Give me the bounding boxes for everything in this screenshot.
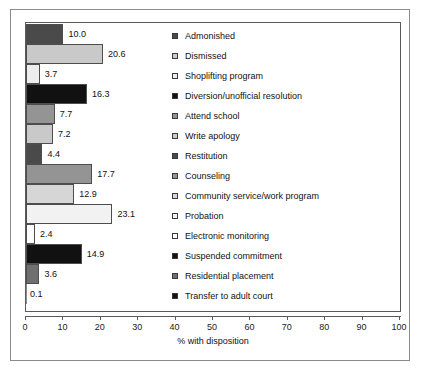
legend-item[interactable]: Transfer to adult court <box>172 286 387 306</box>
x-axis-tick <box>62 316 63 320</box>
legend-item-label: Shoplifting program <box>185 71 263 82</box>
bar-value-label: 4.4 <box>47 146 60 162</box>
x-axis-tick-label: 80 <box>309 322 339 333</box>
figure-container: 10.020.63.716.37.77.24.417.712.923.12.41… <box>0 0 425 377</box>
bar[interactable] <box>26 184 74 204</box>
x-axis-tick-label: 70 <box>272 322 302 333</box>
legend-item[interactable]: Admonished <box>172 26 387 46</box>
legend-swatch-icon <box>172 173 178 179</box>
x-axis-tick-label: 30 <box>122 322 152 333</box>
legend-item-label: Diversion/unofficial resolution <box>185 91 302 102</box>
bar-value-label: 7.7 <box>60 106 73 122</box>
x-axis-tick-label: 10 <box>47 322 77 333</box>
legend-item[interactable]: Attend school <box>172 106 387 126</box>
x-axis-tick-label: 50 <box>197 322 227 333</box>
legend-swatch-icon <box>172 213 178 219</box>
legend-swatch-icon <box>172 273 178 279</box>
x-axis-tick-label: 20 <box>85 322 115 333</box>
legend-item-label: Community service/work program <box>185 191 319 202</box>
legend-swatch-icon <box>172 113 178 119</box>
bar[interactable] <box>26 144 42 164</box>
bar-value-label: 7.2 <box>58 126 71 142</box>
chart-legend: AdmonishedDismissedShoplifting programDi… <box>172 26 387 306</box>
bar[interactable] <box>26 244 82 264</box>
bar[interactable] <box>26 124 53 144</box>
x-axis-tick-label: 100 <box>384 322 414 333</box>
bar[interactable] <box>26 44 103 64</box>
x-axis-title: % with disposition <box>25 336 401 346</box>
legend-item-label: Transfer to adult court <box>185 291 273 302</box>
legend-item[interactable]: Dismissed <box>172 46 387 66</box>
bar[interactable] <box>26 64 40 84</box>
x-axis-tick-label: 0 <box>10 322 40 333</box>
legend-item-label: Counseling <box>185 171 230 182</box>
legend-item[interactable]: Diversion/unofficial resolution <box>172 86 387 106</box>
x-axis-tick <box>362 316 363 320</box>
bar-value-label: 3.7 <box>45 66 58 82</box>
legend-item-label: Dismissed <box>185 51 227 62</box>
legend-item[interactable]: Residential placement <box>172 266 387 286</box>
bar[interactable] <box>26 224 35 244</box>
bar-value-label: 12.9 <box>79 186 97 202</box>
legend-swatch-icon <box>172 193 178 199</box>
bar-value-label: 20.6 <box>108 46 126 62</box>
x-axis-tick <box>137 316 138 320</box>
legend-item[interactable]: Suspended commitment <box>172 246 387 266</box>
legend-item-label: Attend school <box>185 111 240 122</box>
bar-value-label: 14.9 <box>87 246 105 262</box>
legend-item[interactable]: Write apology <box>172 126 387 146</box>
legend-item[interactable]: Community service/work program <box>172 186 387 206</box>
x-axis-tick <box>287 316 288 320</box>
x-axis-line <box>25 316 401 317</box>
legend-item-label: Admonished <box>185 31 235 42</box>
legend-swatch-icon <box>172 73 178 79</box>
bar-value-label: 23.1 <box>117 206 135 222</box>
legend-item-label: Restitution <box>185 151 228 162</box>
bar-value-label: 3.6 <box>44 266 57 282</box>
legend-item[interactable]: Counseling <box>172 166 387 186</box>
legend-item[interactable]: Probation <box>172 206 387 226</box>
legend-item-label: Electronic monitoring <box>185 231 269 242</box>
x-axis-tick-label: 40 <box>160 322 190 333</box>
x-axis-tick <box>100 316 101 320</box>
bar[interactable] <box>26 164 92 184</box>
legend-item-label: Suspended commitment <box>185 251 282 262</box>
legend-swatch-icon <box>172 253 178 259</box>
legend-swatch-icon <box>172 153 178 159</box>
x-axis-tick-label: 90 <box>347 322 377 333</box>
legend-swatch-icon <box>172 93 178 99</box>
bar[interactable] <box>26 264 39 284</box>
bar-value-label: 0.1 <box>30 286 43 302</box>
x-axis-tick <box>249 316 250 320</box>
legend-swatch-icon <box>172 133 178 139</box>
x-axis-tick-label: 60 <box>234 322 264 333</box>
bar-value-label: 2.4 <box>40 226 53 242</box>
x-axis-tick <box>212 316 213 320</box>
x-axis-tick <box>25 316 26 320</box>
legend-swatch-icon <box>172 53 178 59</box>
bar[interactable] <box>26 104 55 124</box>
bar[interactable] <box>26 24 63 44</box>
bar-value-label: 17.7 <box>97 166 115 182</box>
bar[interactable] <box>26 204 112 224</box>
legend-item-label: Probation <box>185 211 224 222</box>
legend-swatch-icon <box>172 233 178 239</box>
x-axis-tick <box>399 316 400 320</box>
bar-value-label: 10.0 <box>68 26 86 42</box>
legend-item[interactable]: Shoplifting program <box>172 66 387 86</box>
legend-swatch-icon <box>172 33 178 39</box>
x-axis-tick <box>175 316 176 320</box>
legend-swatch-icon <box>172 293 178 299</box>
bar[interactable] <box>26 84 87 104</box>
legend-item-label: Write apology <box>185 131 240 142</box>
legend-item[interactable]: Restitution <box>172 146 387 166</box>
legend-item-label: Residential placement <box>185 271 274 282</box>
bar-value-label: 16.3 <box>92 86 110 102</box>
legend-item[interactable]: Electronic monitoring <box>172 226 387 246</box>
bar[interactable] <box>26 284 27 304</box>
x-axis-tick <box>324 316 325 320</box>
